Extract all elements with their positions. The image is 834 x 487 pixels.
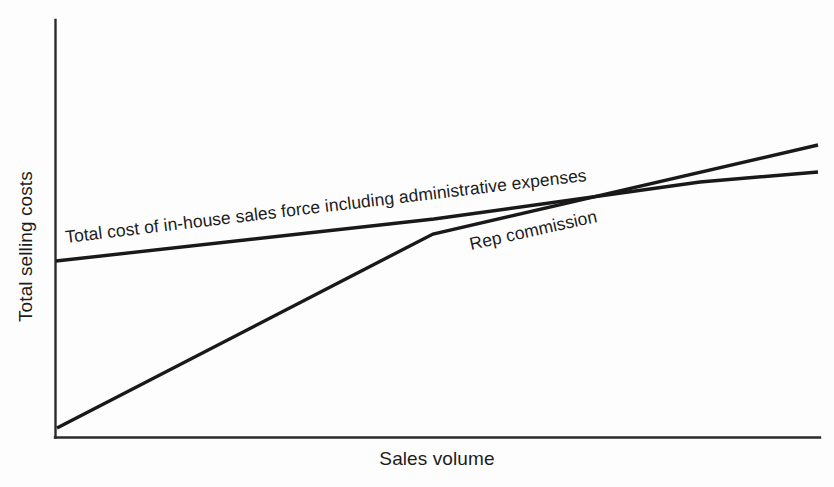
chart-plot-area: Total selling costs Sales volume Total c…: [0, 0, 834, 487]
chart-figure: Total selling costs Sales volume Total c…: [0, 0, 834, 487]
x-axis-title: Sales volume: [379, 448, 494, 469]
y-axis-title: Total selling costs: [15, 171, 36, 322]
series-label-rep-commission: Rep commission: [468, 206, 599, 254]
